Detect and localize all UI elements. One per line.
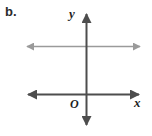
coordinate-plane-svg bbox=[0, 0, 152, 136]
part-label-b: b. bbox=[5, 5, 17, 18]
origin-label: O bbox=[70, 98, 79, 110]
x-axis-label: x bbox=[134, 96, 141, 109]
graph-figure: b. y x O bbox=[0, 0, 152, 136]
y-axis-label: y bbox=[69, 7, 75, 20]
